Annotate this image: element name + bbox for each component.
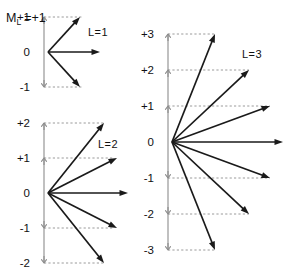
panel-L2: +2+10-1-2L=2	[17, 117, 128, 269]
vector-L1-ml-1-shaft	[48, 52, 75, 82]
axis-tick-L2-ml-2	[42, 256, 47, 263]
ml-label-L1-ml0: 0	[24, 46, 30, 58]
vector-L2-ml1-head	[108, 158, 117, 165]
vector-L3-ml-3-head	[209, 241, 215, 250]
axis-tick-L3-ml-3	[166, 243, 171, 250]
ml-label-L3-ml-3: -3	[144, 244, 154, 256]
vector-L1-ml1	[48, 17, 80, 52]
vector-L3-ml-1-shaft	[172, 142, 263, 175]
axis-tick-L2-ml1	[42, 158, 47, 165]
vector-L3-ml3-head	[209, 34, 215, 43]
vector-L3-ml2-shaft	[172, 75, 244, 142]
axis-tick-L2-ml2	[42, 123, 47, 130]
ml-label-L2-ml2: +2	[17, 117, 30, 129]
vector-L2-ml-1	[48, 193, 117, 228]
axis-tick-L3-ml-2	[166, 207, 171, 214]
ml-label-L3-ml-1: -1	[144, 172, 154, 184]
panel-L3: +3+2+10-1-2-3L=3	[141, 28, 283, 256]
panel-label-L2: L=2	[98, 138, 118, 150]
ml-label-L3-ml-2: -2	[144, 208, 154, 220]
ml-label-L2-ml0: 0	[24, 187, 30, 199]
ml-label-L1-ml-1: -1	[20, 81, 30, 93]
axis-tick-L3-ml2	[166, 70, 171, 77]
vector-L3-ml-3	[172, 142, 215, 250]
axis-tick-L1-ml-1	[42, 80, 47, 87]
ml-label-L3-ml2: +2	[141, 64, 154, 76]
vector-L3-ml-1-head	[261, 172, 270, 178]
ml-top-value: =+1	[24, 11, 46, 25]
vector-diagram-svg: +10-1L=1+2+10-1-2L=2+3+2+10-1-2-3L=3ML=+…	[0, 0, 298, 279]
vector-L1-ml-1	[48, 52, 80, 87]
vector-L2-ml-2-shaft	[48, 193, 99, 257]
vector-L3-ml-2-shaft	[172, 142, 244, 209]
vector-L2-ml-1-head	[108, 221, 117, 228]
vector-L1-ml0-head	[92, 49, 101, 55]
vector-L2-ml0-head	[120, 190, 129, 196]
vector-L3-ml1-head	[261, 106, 270, 112]
vector-L2-ml-2	[48, 193, 104, 263]
vector-L3-ml-2	[172, 142, 249, 214]
vector-L3-ml0-head	[275, 139, 284, 145]
angular-momentum-figure: +10-1L=1+2+10-1-2L=2+3+2+10-1-2-3L=3ML=+…	[0, 0, 298, 279]
ml-axis-title: ML=+1	[6, 11, 46, 27]
ml-label-L3-ml1: +1	[141, 100, 154, 112]
vector-L2-ml0	[48, 190, 128, 196]
ml-axis-title-text: ML=+1	[6, 11, 46, 27]
vector-L3-ml3-shaft	[172, 41, 212, 142]
panel-label-L1: L=1	[88, 26, 108, 38]
vector-L3-ml1-shaft	[172, 109, 263, 142]
vector-L3-ml-1	[172, 142, 270, 178]
vector-L3-ml2	[172, 70, 249, 142]
ml-label-L3-ml3: +3	[141, 28, 154, 40]
ml-label-L2-ml-1: -1	[20, 222, 30, 234]
vector-L1-ml1-shaft	[48, 22, 75, 52]
vector-L3-ml3	[172, 34, 215, 142]
vector-L3-ml1	[172, 106, 270, 142]
vector-L2-ml1	[48, 158, 117, 193]
panel-label-L3: L=3	[242, 48, 262, 60]
vector-L2-ml2	[48, 123, 104, 193]
vector-L3-ml-3-shaft	[172, 142, 212, 243]
axis-tick-L3-ml3	[166, 34, 171, 41]
axis-tick-L2-ml-1	[42, 221, 47, 228]
vector-L1-ml0	[48, 49, 100, 55]
ml-subscript: L	[16, 17, 21, 27]
ml-label-L2-ml1: +1	[17, 152, 30, 164]
ml-label-L3-ml0: 0	[148, 136, 154, 148]
ml-symbol: M	[6, 11, 16, 25]
vector-L2-ml2-shaft	[48, 129, 99, 193]
axis-tick-L3-ml-1	[166, 171, 171, 178]
ml-label-L2-ml-2: -2	[20, 257, 30, 269]
vector-L2-ml1-shaft	[48, 161, 110, 193]
vector-L2-ml-1-shaft	[48, 193, 110, 225]
vector-L3-ml0	[172, 139, 283, 145]
axis-tick-L3-ml1	[166, 106, 171, 113]
